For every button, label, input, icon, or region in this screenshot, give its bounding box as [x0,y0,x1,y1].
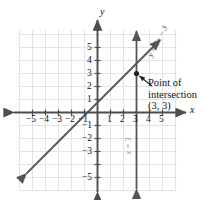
annotation-line-3: (3, 3) [148,100,197,112]
intersection-point-marker [134,71,139,76]
y-tick-label--2: −2 [82,133,92,143]
intersection-annotation: Point of intersection (3, 3) [148,77,197,112]
x-tick-label--3: −3 [52,114,62,124]
y-tick-label--1: −1 [82,120,92,130]
y-tick-label-1: 1 [87,94,92,104]
y-tick-label-3: 3 [87,68,92,78]
annotation-line-2: intersection [148,89,197,101]
x-tick-label-5: 5 [159,114,164,124]
y-axis-label: y [100,6,104,17]
y-tick-label--3: −3 [82,146,92,156]
annotation-line-1: Point of [148,77,197,89]
y-tick-label-5: 5 [87,42,92,52]
graph-figure: y x −5 −4 −3 −2 −1 1 2 3 4 5 5 4 3 2 1 −… [0,0,215,200]
y-tick-label--5: −5 [82,172,92,182]
x-tick-label-3: 3 [133,114,138,124]
x-tick-label--2: −2 [65,114,75,124]
line-label-vertical: x = 3 [124,138,133,155]
x-tick-label-4: 4 [146,114,151,124]
x-tick-label-1: 1 [107,114,112,124]
x-tick-label--5: −5 [26,114,36,124]
x-tick-label--4: −4 [39,114,49,124]
y-tick-label-2: 2 [87,81,92,91]
x-tick-label-2: 2 [120,114,125,124]
y-tick-label-4: 4 [87,55,92,65]
